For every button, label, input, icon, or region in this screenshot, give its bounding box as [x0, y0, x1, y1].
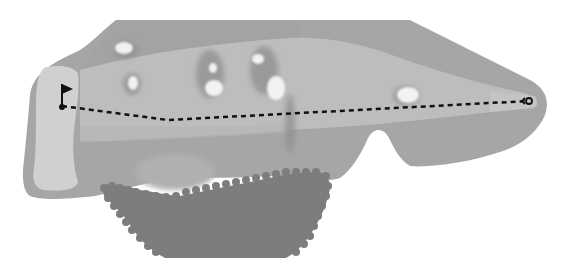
bunker-2	[128, 76, 138, 90]
bunker-4	[205, 80, 223, 96]
bunker-5	[252, 54, 264, 64]
mound	[135, 154, 215, 190]
hole-map	[0, 0, 571, 280]
bunker-6	[267, 76, 285, 100]
golf-hole-diagram	[0, 0, 571, 280]
bunker-1	[115, 42, 133, 54]
bunker-7	[397, 87, 419, 103]
bunker-3	[209, 63, 217, 73]
green	[33, 66, 78, 191]
